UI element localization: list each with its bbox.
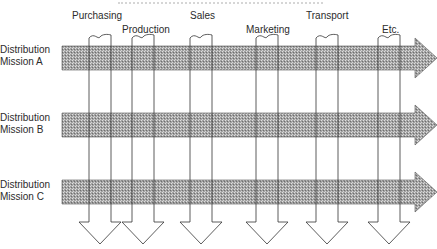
mission-label-line2: Mission B [0,124,50,136]
mission-label-line2: Mission C [0,191,50,203]
mission-label: DistributionMission B [0,112,50,135]
mission-arrow-a [62,38,437,78]
mission-label: DistributionMission A [0,44,50,67]
function-label: Etc. [382,24,399,35]
mission-label: DistributionMission C [0,179,50,202]
mission-arrow-c [62,172,437,212]
function-label: Marketing [246,24,290,35]
mission-label-line2: Mission A [0,56,50,68]
function-label: Sales [190,10,215,21]
distribution-matrix-diagram [0,0,437,249]
mission-arrow-b [62,105,437,145]
function-label: Purchasing [72,10,122,21]
mission-label-line1: Distribution [0,112,50,124]
function-label: Production [122,24,170,35]
mission-label-line1: Distribution [0,44,50,56]
mission-label-line1: Distribution [0,179,50,191]
function-label: Transport [306,10,348,21]
